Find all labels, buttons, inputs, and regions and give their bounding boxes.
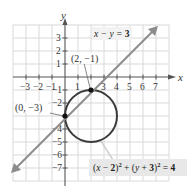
svg-text:−7: −7 bbox=[52, 163, 62, 173]
x-axis-label: x bbox=[177, 71, 183, 83]
intersection-point-2-neg1 bbox=[88, 87, 93, 92]
y-tick-labels: 3 2 1 −1 −2 −4 −5 −6 −7 bbox=[52, 33, 62, 173]
svg-text:5: 5 bbox=[127, 82, 132, 92]
svg-text:1: 1 bbox=[56, 59, 61, 69]
svg-text:−1: −1 bbox=[52, 85, 62, 95]
svg-text:−6: −6 bbox=[52, 150, 62, 160]
svg-text:3: 3 bbox=[56, 33, 61, 43]
leader-line-circle bbox=[101, 141, 113, 160]
circle-equation-label: (x − 2)2 + (y + 3)2 = 4 bbox=[93, 161, 176, 174]
svg-text:−2: −2 bbox=[33, 82, 43, 92]
svg-text:4: 4 bbox=[114, 82, 119, 92]
y-axis-label: y bbox=[60, 9, 66, 21]
point1-label: (2, −1) bbox=[71, 53, 98, 65]
svg-text:−2: −2 bbox=[52, 98, 62, 108]
svg-text:7: 7 bbox=[153, 82, 158, 92]
point2-label: (0, −3) bbox=[15, 102, 42, 114]
leader-line-point1 bbox=[84, 63, 90, 88]
svg-text:2: 2 bbox=[56, 46, 61, 56]
svg-text:−5: −5 bbox=[52, 137, 62, 147]
graph: y x −3 −2 −1 1 3 4 5 6 7 3 2 1 −1 −2 −4 … bbox=[0, 0, 195, 194]
line-equation-label: x − y = 3 bbox=[93, 29, 130, 39]
svg-text:6: 6 bbox=[140, 82, 145, 92]
svg-text:1: 1 bbox=[75, 82, 80, 92]
svg-text:−3: −3 bbox=[20, 82, 30, 92]
intersection-point-0-neg3 bbox=[62, 113, 67, 118]
x-axis-arrow-icon bbox=[168, 75, 176, 80]
line-x-minus-y-equals-3 bbox=[16, 31, 153, 168]
